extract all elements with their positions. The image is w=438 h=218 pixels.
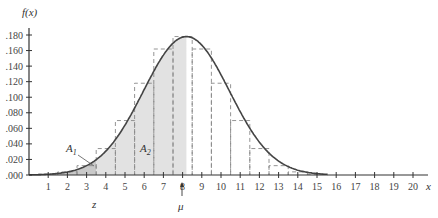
x-tick-label: 16 xyxy=(331,181,341,192)
y-tick-label: .140 xyxy=(6,61,24,72)
y-tick-label: .040 xyxy=(6,138,24,149)
shaded-region-a2 xyxy=(96,37,186,175)
x-tick-label: 4 xyxy=(103,181,108,192)
x-tick-label: 1 xyxy=(46,181,51,192)
shaded-areas xyxy=(29,37,186,175)
x-tick-label: 12 xyxy=(254,181,264,192)
x-tick-label: 11 xyxy=(235,181,245,192)
y-tick-label: .020 xyxy=(6,154,24,165)
y-tick-label: .060 xyxy=(6,123,24,134)
x-tick-label: 9 xyxy=(199,181,204,192)
annotation-a1: A1 xyxy=(65,142,94,166)
x-tick-label: 6 xyxy=(142,181,147,192)
probability-bar xyxy=(231,121,250,175)
x-tick-label: 7 xyxy=(161,181,166,192)
x-axis: 1234567891011121314151617181920 x xyxy=(29,172,431,192)
y-tick-label: .080 xyxy=(6,107,24,118)
y-tick-label: .160 xyxy=(6,45,24,56)
x-tick-label: 19 xyxy=(389,181,399,192)
x-tick-label: 3 xyxy=(84,181,89,192)
y-axis-title: f(x) xyxy=(22,6,38,19)
x-tick-label: 10 xyxy=(216,181,226,192)
normal-approximation-chart: .000.020.040.060.080.100.120.140.160.180… xyxy=(0,0,438,218)
x-tick-label: 15 xyxy=(312,181,322,192)
probability-bar xyxy=(250,149,269,175)
z-label: z xyxy=(91,198,97,210)
x-tick-label: 2 xyxy=(65,181,70,192)
svg-text:A1: A1 xyxy=(65,142,77,157)
probability-bar xyxy=(192,49,211,175)
y-tick-label: .100 xyxy=(6,92,24,103)
x-tick-label: 20 xyxy=(408,181,418,192)
probability-bar xyxy=(211,83,230,175)
x-tick-label: 14 xyxy=(293,181,303,192)
y-tick-label: .120 xyxy=(6,76,24,87)
x-axis-title: x xyxy=(425,180,431,192)
y-tick-label: .000 xyxy=(6,170,24,181)
x-tick-label: 17 xyxy=(350,181,360,192)
y-axis: .000.020.040.060.080.100.120.140.160.180… xyxy=(6,6,38,181)
mu-marker: μ xyxy=(177,182,184,212)
x-tick-label: 13 xyxy=(274,181,284,192)
y-tick-label: .180 xyxy=(6,30,24,41)
mu-label: μ xyxy=(177,200,184,212)
x-tick-label: 18 xyxy=(370,181,380,192)
x-tick-label: 5 xyxy=(123,181,128,192)
